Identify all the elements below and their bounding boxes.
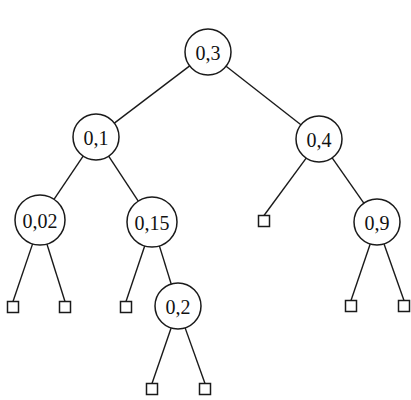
tree-edge [13,244,33,302]
tree-edges [13,66,404,384]
tree-node: 0,4 [296,116,342,162]
tree-edge [185,328,205,384]
tree-node: 0,1 [73,114,119,160]
null-leaf-square [259,216,270,227]
tree-node: 0,3 [185,29,231,75]
tree-edge [109,156,139,201]
tree-edge [226,66,301,125]
node-label: 0,1 [84,127,109,149]
tree-edge [264,158,306,215]
node-label: 0,9 [365,212,390,234]
node-label: 0,15 [135,212,170,234]
null-leaf-square [147,384,158,395]
null-leaf-square [8,302,19,313]
null-leaf-square [200,384,211,395]
tree-edge [384,244,404,301]
tree-edge [54,156,83,199]
node-label: 0,2 [166,296,191,318]
binary-tree-diagram: 0,30,10,40,020,150,90,2 [0,0,411,400]
tree-edge [47,244,65,301]
node-label: 0,4 [307,129,332,151]
tree-node: 0,15 [127,197,177,247]
null-leaf-square [399,301,410,312]
null-leaf-square [60,302,71,313]
tree-edge [351,244,370,301]
tree-edge [114,66,189,123]
node-label: 0,02 [23,210,58,232]
node-label: 0,3 [196,42,221,64]
tree-node: 0,2 [155,283,201,329]
tree-nodes: 0,30,10,40,020,150,90,2 [15,29,400,329]
tree-edge [332,158,364,203]
tree-edge [159,246,171,284]
tree-edge [126,246,145,302]
tree-node: 0,9 [354,199,400,245]
tree-leaves [8,216,410,395]
null-leaf-square [346,301,357,312]
tree-edge [152,328,171,384]
null-leaf-square [121,302,132,313]
tree-node: 0,02 [15,195,65,245]
